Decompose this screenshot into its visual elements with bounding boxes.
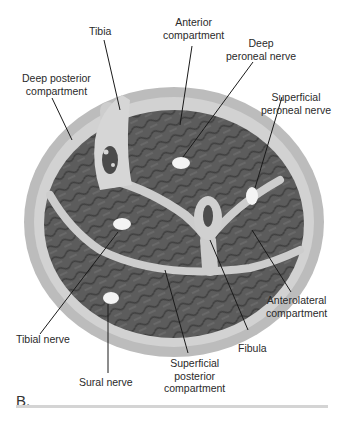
label-line: compartment	[163, 29, 224, 42]
label-anterolateral-compartment: Anterolateral compartment	[266, 294, 327, 319]
deep-peroneal-nerve	[172, 157, 190, 169]
superficial-peroneal-nerve	[246, 187, 258, 205]
label-superficial-peroneal-nerve: Superficial peroneal nerve	[261, 91, 331, 116]
sural-nerve	[103, 292, 119, 304]
label-line: Anterolateral	[266, 294, 327, 307]
label-line: Anterior	[163, 16, 224, 29]
label-line: Deep	[226, 37, 296, 50]
tibial-nerve	[113, 218, 131, 230]
label-line: compartment	[164, 382, 225, 395]
label-line: compartment	[22, 85, 91, 98]
leg-cross-section-figure: Tibia Anterior compartment Deep peroneal…	[0, 0, 345, 423]
label-line: posterior	[164, 370, 225, 383]
label-anterior-compartment: Anterior compartment	[163, 16, 224, 41]
separator-line	[16, 405, 328, 408]
fibula-bone	[194, 196, 222, 240]
label-line: peroneal nerve	[261, 104, 331, 117]
label-deep-posterior-compartment: Deep posterior compartment	[22, 72, 91, 97]
label-line: peroneal nerve	[226, 50, 296, 63]
label-tibia: Tibia	[89, 25, 111, 38]
label-tibial-nerve: Tibial nerve	[16, 333, 70, 346]
label-deep-peroneal-nerve: Deep peroneal nerve	[226, 37, 296, 62]
label-line: Superficial	[164, 357, 225, 370]
label-line: Superficial	[261, 91, 331, 104]
label-superficial-posterior-compartment: Superficial posterior compartment	[164, 357, 225, 395]
label-line: Deep posterior	[22, 72, 91, 85]
label-line: compartment	[266, 307, 327, 320]
label-fibula: Fibula	[238, 342, 267, 355]
label-sural-nerve: Sural nerve	[79, 376, 133, 389]
